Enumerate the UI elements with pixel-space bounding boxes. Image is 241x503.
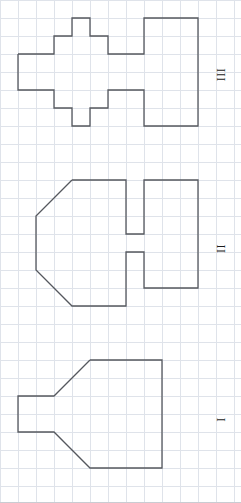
figure-shape-I xyxy=(18,360,162,468)
figure-label-two: II xyxy=(215,234,227,264)
figure-shape-III xyxy=(18,18,198,126)
worksheet-canvas: III II I xyxy=(0,0,241,503)
figure-shape-II xyxy=(36,180,198,306)
figure-label-one: I xyxy=(215,405,227,435)
figures-group xyxy=(0,0,241,503)
figure-label-three: III xyxy=(215,60,227,90)
